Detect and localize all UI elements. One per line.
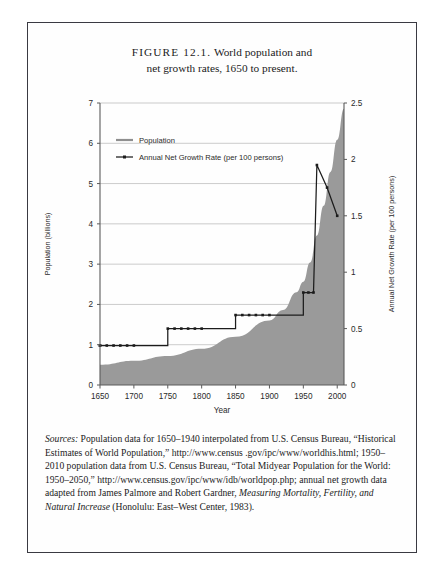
y-tick-label-right: 2.5: [351, 99, 363, 108]
y-tick-label-right: 0.5: [351, 325, 363, 334]
y-tick-label-left: 7: [88, 99, 93, 108]
x-tick-label: 1800: [193, 392, 212, 401]
data-point-marker: [248, 314, 251, 317]
y-tick-label-right: 2: [351, 155, 356, 164]
data-point-marker: [326, 186, 329, 189]
x-tick-label: 1950: [294, 392, 313, 401]
data-point-marker: [302, 291, 305, 294]
data-point-marker: [187, 327, 190, 330]
y-tick-label-left: 5: [88, 180, 93, 189]
data-point-marker: [312, 291, 315, 294]
y-tick-label-left: 6: [88, 139, 93, 148]
x-axis-label: Year: [214, 406, 231, 415]
data-point-marker: [173, 327, 176, 330]
y-tick-label-right: 1: [351, 268, 356, 277]
data-point-marker: [105, 344, 108, 347]
data-point-marker: [268, 314, 271, 317]
y-tick-label-right: 0: [351, 381, 356, 390]
population-area: [100, 109, 344, 385]
y-tick-label-right: 1.5: [351, 212, 363, 221]
y-axis-label-left: Population (billions): [43, 213, 52, 276]
x-tick-label: 2000: [328, 392, 347, 401]
data-point-marker: [241, 314, 244, 317]
population-growth-chart: 0123456700.511.522.516501700175018001850…: [30, 80, 414, 425]
legend-label-growth-rate: Annual Net Growth Rate (per 100 persons): [139, 153, 284, 162]
data-point-marker: [133, 344, 136, 347]
data-point-marker: [119, 344, 122, 347]
y-tick-label-left: 2: [88, 300, 93, 309]
data-point-marker: [126, 344, 129, 347]
x-tick-label: 1750: [159, 392, 178, 401]
y-tick-label-left: 1: [88, 341, 93, 350]
figure-page: FIGURE 12.1. World population and net gr…: [0, 0, 444, 574]
data-point-marker: [307, 291, 310, 294]
data-point-marker: [180, 327, 183, 330]
data-point-marker: [255, 314, 258, 317]
data-point-marker: [166, 327, 169, 330]
y-tick-label-left: 3: [88, 260, 93, 269]
x-tick-label: 1700: [125, 392, 144, 401]
sources-label: Sources:: [45, 433, 78, 444]
data-point-marker: [112, 344, 115, 347]
sources-note: Sources: Population data for 1650–1940 i…: [45, 432, 401, 514]
x-tick-label: 1650: [91, 392, 110, 401]
y-tick-label-left: 4: [88, 220, 93, 229]
legend-marker-growth-rate: [123, 156, 126, 159]
x-tick-label: 1850: [226, 392, 245, 401]
data-point-marker: [234, 314, 237, 317]
legend-label-population: Population: [139, 136, 175, 145]
data-point-marker: [194, 327, 197, 330]
chart-container: 0123456700.511.522.516501700175018001850…: [30, 80, 414, 425]
figure-number: FIGURE 12.1.: [132, 46, 211, 58]
figure-title-line1: World population and: [214, 46, 312, 58]
data-point-marker: [336, 215, 339, 218]
y-axis-label-right: Annual Net Growth Rate (per 100 persons): [387, 176, 396, 313]
figure-caption: FIGURE 12.1. World population and net gr…: [27, 44, 417, 76]
data-point-marker: [200, 327, 203, 330]
y-tick-label-left: 0: [88, 381, 93, 390]
data-point-marker: [316, 164, 319, 167]
data-point-marker: [261, 314, 264, 317]
figure-title-line2: net growth rates, 1650 to present.: [147, 62, 298, 74]
x-tick-label: 1900: [260, 392, 279, 401]
sources-text-2: (Honolulu: East–West Center, 1983).: [110, 501, 254, 512]
